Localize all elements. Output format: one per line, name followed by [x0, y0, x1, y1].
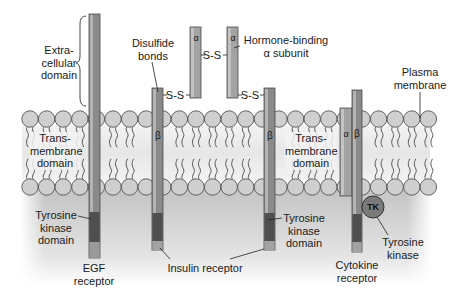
- ss-bond-alpha-alpha: S-S: [201, 49, 223, 62]
- insulin-beta-left: [152, 88, 163, 250]
- transmembrane-domain-label-right: Trans- membrane domain: [285, 132, 337, 170]
- cytokine-alpha: [340, 108, 352, 196]
- insulin-receptor-label: Insulin receptor: [160, 262, 250, 275]
- alpha-glyph-right: α: [228, 32, 238, 45]
- alpha-glyph-cytokine: α: [341, 128, 351, 141]
- plasma-membrane-label: Plasma membrane: [392, 66, 448, 91]
- hormone-binding-alpha-label: Hormone-binding α subunit: [242, 34, 330, 59]
- receptor-diagram: α α β β α β S-S S-S S-S TK Extra- cellul…: [0, 0, 451, 297]
- egf-kinase-domain: [89, 212, 99, 242]
- beta-glyph-cytokine: β: [352, 128, 362, 141]
- cytokine-receptor-label: Cytokine receptor: [332, 259, 382, 284]
- extracellular-domain-label: Extra- cellular domain: [36, 44, 82, 82]
- ss-bond-left: S-S: [164, 89, 186, 102]
- egf-receptor-label: EGF receptor: [72, 262, 116, 287]
- alpha-glyph-left: α: [191, 32, 201, 45]
- egf-receptor: [89, 14, 100, 258]
- tyrosine-kinase-domain-label-right: Tyrosine kinase domain: [282, 212, 326, 250]
- beta-glyph-insulin-right: β: [265, 130, 275, 143]
- disulfide-bonds-label: Disulfide bonds: [128, 37, 178, 62]
- tyrosine-kinase-label: Tyrosine kinase: [380, 236, 426, 261]
- transmembrane-domain-label-left: Trans- membrane domain: [30, 132, 80, 170]
- cytokine-beta: [352, 90, 362, 252]
- membrane-interior: [22, 126, 430, 180]
- tk-glyph: TK: [362, 201, 384, 214]
- insulin-beta-right: [264, 88, 275, 250]
- ss-bond-right: S-S: [239, 89, 261, 102]
- tyrosine-kinase-domain-label-left: Tyrosine kinase domain: [34, 209, 78, 247]
- beta-glyph-insulin-left: β: [153, 130, 163, 143]
